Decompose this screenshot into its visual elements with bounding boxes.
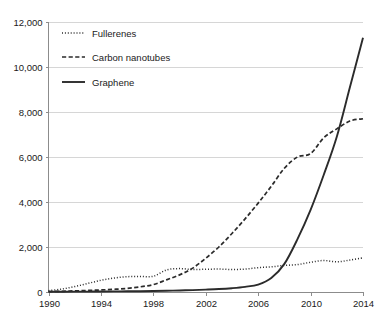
x-axis-tick-label: 1990 xyxy=(39,298,60,309)
legend-label-carbon-nanotubes: Carbon nanotubes xyxy=(92,52,170,63)
chart-background xyxy=(0,0,382,326)
y-axis-tick-label: 8,000 xyxy=(19,107,43,118)
x-axis-tick-label: 1994 xyxy=(91,298,112,309)
x-axis-tick-label: 2014 xyxy=(353,298,374,309)
legend-label-fullerenes: Fullerenes xyxy=(92,28,137,39)
y-axis-tick-label: 12,000 xyxy=(13,17,42,28)
chart-container: 02,0004,0006,0008,00010,00012,000 199019… xyxy=(0,0,382,326)
y-axis-tick-label: 10,000 xyxy=(13,62,42,73)
publication-trends-line-chart: 02,0004,0006,0008,00010,00012,000 199019… xyxy=(0,0,382,326)
y-axis-tick-label: 2,000 xyxy=(19,242,43,253)
y-axis-tick-label: 0 xyxy=(37,287,42,298)
x-axis-tick-label: 1998 xyxy=(143,298,164,309)
y-axis-tick-label: 6,000 xyxy=(19,152,43,163)
y-axis-tick-label: 4,000 xyxy=(19,197,43,208)
x-axis-tick-label: 2006 xyxy=(248,298,269,309)
legend-label-graphene: Graphene xyxy=(92,77,134,88)
x-axis-tick-label: 2010 xyxy=(301,298,322,309)
x-axis-tick-label: 2002 xyxy=(196,298,217,309)
